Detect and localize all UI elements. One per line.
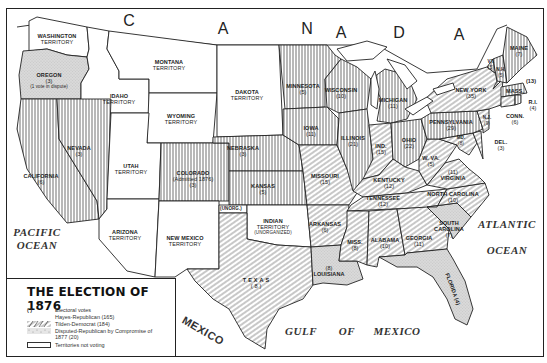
label-mexico-gulf: MEXICO	[373, 325, 420, 338]
label-pacific-ocean: PACIFIC OCEAN	[13, 226, 60, 252]
label-canada-c: C	[123, 12, 135, 30]
region-rhodeisland	[515, 95, 521, 105]
label-indian: INDIANTERRITORY(UNORGANIZED)	[254, 218, 292, 236]
label-maryland: MD.(8)	[457, 135, 466, 147]
label-westvirginia: W. VA.(5)	[422, 155, 439, 167]
label-missouri: MISSOURI(15)	[311, 173, 339, 185]
label-delaware: DEL.(3)	[495, 139, 508, 151]
legend-item-tilden: Tilden-Democrat (184)	[27, 321, 110, 327]
label-newhampshire: N.H.(5)	[496, 67, 505, 79]
label-michigan: MICHIGAN(11)	[379, 97, 408, 109]
label-california: CALIFORNIA(6)	[24, 173, 59, 185]
label-indiana: IND.(15)	[375, 143, 386, 155]
label-unorg: (UNORG.)	[220, 206, 242, 212]
label-colorado: COLORADO(Admitted 1876)(3)	[173, 170, 214, 188]
label-dakota: DAKOTATERRITORY	[231, 89, 263, 101]
label-tennessee: TENNESSEE(12)	[366, 195, 400, 207]
label-newyork: NEW YORK(35)	[456, 87, 487, 99]
parentheses-icon: ( )	[27, 307, 51, 313]
label-canada-a1: A	[218, 20, 229, 38]
label-virginia: (11)VIRGINIA	[440, 169, 465, 181]
label-kansas: KANSAS(5)	[251, 183, 275, 195]
legend: THE ELECTION OF 1876 ( ) Electoral votes…	[7, 278, 176, 357]
label-nebraska: NEBRASKA(3)	[227, 145, 259, 157]
label-utah: UTAHTERRITORY	[115, 163, 147, 175]
label-gulf: GULF	[285, 325, 317, 338]
label-oregon: OREGON(3)(1 vote in dispute)	[30, 72, 68, 90]
label-connecticut: CONN.(6)	[506, 113, 524, 125]
label-canada-d: D	[393, 24, 405, 42]
label-arizona: ARIZONATERRITORY	[109, 229, 141, 241]
label-arkansas: ARKANSAS(6)	[309, 221, 341, 233]
pacific-line1: PACIFIC	[13, 226, 60, 238]
label-illinois: ILLINOIS(21)	[341, 135, 365, 147]
label-ohio: OHIO(22)	[402, 137, 416, 149]
region-florida	[379, 249, 473, 325]
atlantic-line1: ATLANTIC	[478, 218, 536, 230]
label-texas: TEXAS(8)	[243, 277, 271, 289]
label-georgia: GEORGIA(11)	[406, 235, 433, 247]
label-canada-n: N	[301, 20, 313, 38]
lake-superior	[337, 41, 387, 61]
legend-item-electoral-votes: ( ) Electoral votes	[27, 307, 91, 313]
label-alabama: ALABAMA(10)	[371, 237, 400, 249]
pacific-line2: OCEAN	[17, 239, 57, 251]
label-pennsylvania: PENNSYLVANIA(29)	[429, 119, 472, 131]
region-connecticut	[501, 95, 515, 107]
label-canada-a2: A	[336, 24, 347, 42]
vertical-lines-icon	[27, 314, 51, 320]
label-massachusetts-votes: (13)	[526, 78, 536, 84]
label-minnesota: MINNESOTA(5)	[286, 83, 320, 95]
label-southcarolina: SOUTH CAROLINA(7)	[434, 220, 464, 238]
label-idaho: IDAHOTERRITORY	[103, 93, 135, 105]
diagonal-lines-icon	[27, 321, 51, 327]
label-washington: WASHINGTONTERRITORY	[38, 33, 77, 45]
label-rhodeisland: R.I.(4)	[529, 99, 538, 111]
label-of: OF	[339, 325, 355, 338]
label-iowa: IOWA(11)	[303, 125, 318, 137]
label-mississippi: MISS.(8)	[347, 239, 362, 251]
label-massachusetts: MASS.	[506, 88, 524, 94]
label-kentucky: KENTUCKY(12)	[373, 177, 404, 189]
label-wisconsin: WISCONSIN(10)	[325, 87, 358, 99]
label-maine: MAINE(7)	[510, 45, 528, 57]
atlantic-line2: OCEAN	[487, 244, 527, 256]
label-newmexico: NEW MEXICOTERRITORY	[166, 235, 203, 247]
label-newjersey: N.J.(9)	[483, 115, 492, 127]
map-frame: C A N A D A PACIFIC OCEAN ATLANTIC OCEAN…	[6, 8, 544, 357]
label-northcarolina: NORTH CAROLINA(10)	[427, 191, 479, 203]
label-wyoming: WYOMINGTERRITORY	[165, 113, 197, 125]
label-atlantic-ocean: ATLANTIC OCEAN	[478, 218, 536, 257]
label-canada-a3: A	[454, 26, 465, 44]
stipple-icon	[27, 328, 51, 334]
legend-item-disputed: Disputed-Republican by Compromise of 187…	[27, 328, 155, 340]
legend-item-territories: Territories not voting	[27, 342, 105, 348]
empty-box-icon	[27, 342, 51, 348]
label-louisiana: (8)LOUISIANA	[313, 265, 344, 277]
label-montana: MONTANATERRITORY	[153, 59, 185, 71]
legend-item-hayes: Hayes-Republican (165)	[27, 314, 114, 320]
label-nevada: NEVADA(3)	[67, 145, 90, 157]
label-vermont: VT.(5)	[488, 59, 495, 71]
